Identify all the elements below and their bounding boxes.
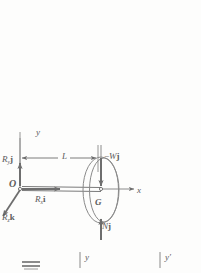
weight-label: −Wj <box>104 152 120 161</box>
reaction-ry-label: Ryj <box>2 155 13 165</box>
x-axis-label: x <box>137 186 141 195</box>
dimension-L-label: L <box>62 152 67 161</box>
normal-force-unit-vector: j <box>108 221 111 231</box>
ground-hatch-icon <box>22 262 40 269</box>
dimension-L-group <box>20 138 98 172</box>
reaction-rx-unit-vector: i <box>43 194 46 204</box>
reaction-ry-unit-vector: j <box>10 154 13 164</box>
reaction-rz-unit-vector: k <box>10 212 15 222</box>
reaction-rz-label: Rzk <box>2 213 15 223</box>
normal-force-label: Nj <box>102 222 111 231</box>
weight-unit-vector: j <box>117 151 120 161</box>
reaction-rx-label: Rxi <box>35 195 46 205</box>
bottom-y-axis-label: y <box>85 253 89 262</box>
y-axis-label: y <box>36 128 40 137</box>
free-body-diagram <box>0 0 201 273</box>
origin-label: O <box>9 179 16 189</box>
wheel-inner-ellipse <box>90 158 119 222</box>
center-of-gravity-label: G <box>95 198 102 207</box>
bottom-partial-artifacts <box>22 252 160 269</box>
bottom-yprime-axis-label: y′ <box>165 253 171 262</box>
weight-symbol: W <box>109 151 117 161</box>
